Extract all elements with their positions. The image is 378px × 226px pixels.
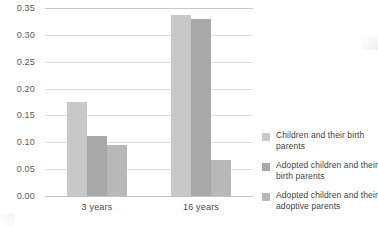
legend-swatch-icon: [262, 133, 270, 141]
y-axis-tick-label: 0.35: [17, 3, 35, 13]
legend-swatch-icon: [262, 163, 270, 171]
scan-artifact: [362, 36, 378, 50]
legend-label: Children and their birth parents: [276, 130, 378, 152]
legend-item[interactable]: Adopted children and their birth parents: [262, 160, 378, 182]
bar: [87, 136, 107, 196]
bar: [67, 102, 87, 196]
gridline: [45, 196, 253, 197]
y-axis-tick-label: 0.25: [17, 57, 35, 67]
legend-item[interactable]: Adopted children and their adoptive pare…: [262, 190, 378, 212]
x-axis-tick-label: 16 years: [183, 202, 219, 212]
y-axis-tick-label: 0.10: [17, 137, 35, 147]
y-axis-tick-label: 0.05: [17, 164, 35, 174]
bar: [171, 15, 191, 196]
x-axis-tick-label: 3 years: [82, 202, 113, 212]
y-axis-tick-label: 0.00: [17, 191, 35, 201]
x-axis: 3 years16 years: [45, 198, 253, 218]
legend-swatch-icon: [262, 193, 270, 201]
bar: [191, 19, 211, 196]
bar-group-3-years: [67, 8, 127, 196]
scan-artifact-corner: [0, 214, 14, 226]
plot-area: [45, 8, 253, 196]
bar: [107, 145, 127, 196]
y-axis-tick-label: 0.30: [17, 30, 35, 40]
y-axis-tick-label: 0.15: [17, 110, 35, 120]
y-axis: 0.000.050.100.150.200.250.300.35: [0, 0, 40, 196]
legend-label: Adopted children and their birth parents: [276, 160, 378, 182]
legend-item[interactable]: Children and their birth parents: [262, 130, 378, 152]
legend-label: Adopted children and their adoptive pare…: [276, 190, 378, 212]
chart-legend: Children and their birth parentsAdopted …: [262, 130, 378, 220]
y-axis-tick-label: 0.20: [17, 84, 35, 94]
bar: [211, 160, 231, 196]
bar-chart: 0.000.050.100.150.200.250.300.35 3 years…: [0, 0, 378, 226]
bar-group-16-years: [171, 8, 231, 196]
